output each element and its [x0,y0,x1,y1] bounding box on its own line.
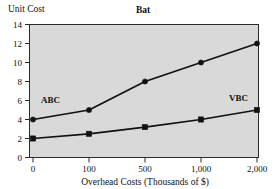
y-tick-label: 14 [13,20,23,30]
series-abc-point [86,107,91,112]
y-axis-ticks [25,25,30,158]
x-axis-ticks [33,158,257,163]
series-vbc-point [254,107,259,112]
x-axis-tick-labels: 0 100 500 1,000 2,000 [31,164,268,174]
series-vbc-point [86,131,91,136]
y-tick-label: 4 [18,115,23,125]
x-tick-label: 500 [138,164,152,174]
series-abc-point [142,79,147,84]
series-vbc-point [142,125,147,130]
y-tick-label: 6 [18,96,23,106]
series-abc-point [198,60,203,65]
series-vbc-point [30,136,35,141]
y-tick-label: 8 [18,77,23,87]
x-tick-label: 0 [31,164,36,174]
y-tick-label: 2 [18,134,23,144]
series-vbc-point [198,117,203,122]
chart-container: Bat Unit Cost 14 12 10 8 6 4 2 0 0 100 5… [0,0,276,189]
x-tick-label: 100 [82,164,96,174]
x-tick-label: 2,000 [247,164,268,174]
y-tick-label: 0 [18,153,23,163]
series-abc-point [254,41,259,46]
x-axis-title: Overhead Costs (Thousands of $) [81,177,209,188]
y-tick-label: 10 [13,58,23,68]
line-chart: Bat Unit Cost 14 12 10 8 6 4 2 0 0 100 5… [0,0,276,189]
chart-title: Bat [136,5,151,15]
y-axis-title: Unit Cost [8,4,45,14]
y-axis-tick-labels: 14 12 10 8 6 4 2 0 [13,20,23,163]
series-label-vbc: VBC [229,93,248,103]
y-tick-label: 12 [13,39,22,49]
series-abc-point [30,117,35,122]
series-label-abc: ABC [41,95,60,105]
plot-area-background [30,25,259,158]
x-tick-label: 1,000 [191,164,212,174]
